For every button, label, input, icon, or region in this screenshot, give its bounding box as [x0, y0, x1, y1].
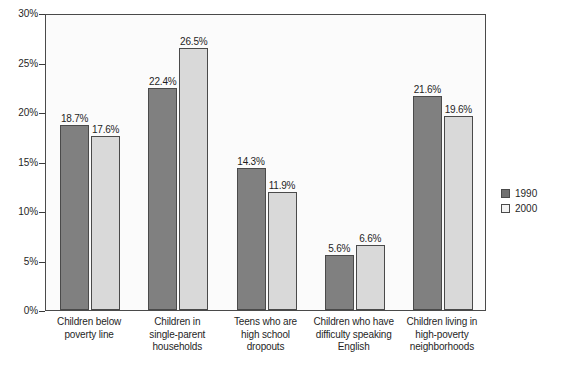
y-tick-mark — [39, 14, 45, 15]
plot-area: 18.7%22.4%14.3%5.6%21.6%17.6%26.5%11.9%6… — [45, 14, 486, 311]
bar-value-label: 22.4% — [145, 77, 180, 87]
dark-swatch-icon — [501, 189, 510, 198]
y-tick-label: 15% — [0, 158, 38, 168]
y-tick-label: 30% — [0, 9, 38, 19]
y-tick-label: 25% — [0, 59, 38, 69]
y-tick-label: 10% — [0, 207, 38, 217]
bars-layer: 18.7%22.4%14.3%5.6%21.6%17.6%26.5%11.9%6… — [46, 15, 485, 310]
legend-label-2000: 2000 — [515, 204, 537, 214]
bar-2000-cat2 — [179, 48, 208, 310]
category-label-2: Children insingle-parenthouseholds — [127, 316, 227, 354]
bar-1990-cat2 — [148, 88, 177, 310]
bar-value-label: 11.9% — [265, 181, 300, 191]
category-label-1: Children belowpoverty line — [39, 316, 139, 341]
bar-chart: 0%5%10%15%20%25%30% 18.7%22.4%14.3%5.6%2… — [0, 0, 562, 367]
bar-value-label: 19.6% — [441, 105, 476, 115]
bar-1990-cat5 — [413, 96, 442, 310]
bar-2000-cat4 — [356, 245, 385, 310]
bar-2000-cat5 — [444, 116, 473, 310]
bar-value-label: 14.3% — [234, 157, 269, 167]
y-tick-mark — [39, 113, 45, 114]
bar-1990-cat1 — [60, 125, 89, 310]
bar-value-label: 26.5% — [176, 37, 211, 47]
x-axis-category-labels: Children belowpoverty lineChildren insin… — [45, 316, 486, 366]
y-tick-mark — [39, 64, 45, 65]
y-axis: 0%5%10%15%20%25%30% — [0, 0, 38, 367]
y-tick-label: 20% — [0, 108, 38, 118]
bar-value-label: 5.6% — [322, 244, 357, 254]
category-label-3: Teens who arehigh schooldropouts — [215, 316, 315, 354]
legend-item-1990[interactable]: 1990 — [501, 186, 559, 201]
category-label-5: Children living inhigh-povertyneighborho… — [392, 316, 492, 354]
light-swatch-icon — [501, 204, 510, 213]
y-tick-label: 5% — [0, 257, 38, 267]
bar-value-label: 21.6% — [410, 85, 445, 95]
y-tick-mark — [39, 212, 45, 213]
y-tick-mark — [39, 163, 45, 164]
y-tick-label: 0% — [0, 306, 38, 316]
chart-legend: 1990 2000 — [501, 186, 559, 216]
bar-value-label: 6.6% — [353, 234, 388, 244]
bar-1990-cat4 — [325, 255, 354, 310]
y-tick-mark — [39, 311, 45, 312]
bar-2000-cat1 — [91, 136, 120, 310]
bar-2000-cat3 — [268, 192, 297, 310]
y-tick-mark — [39, 262, 45, 263]
bar-value-label: 18.7% — [57, 114, 92, 124]
legend-item-2000[interactable]: 2000 — [501, 201, 559, 216]
legend-label-1990: 1990 — [515, 189, 537, 199]
bar-value-label: 17.6% — [88, 125, 123, 135]
category-label-4: Children who havedifficulty speakingEngl… — [304, 316, 404, 354]
bar-1990-cat3 — [237, 168, 266, 310]
